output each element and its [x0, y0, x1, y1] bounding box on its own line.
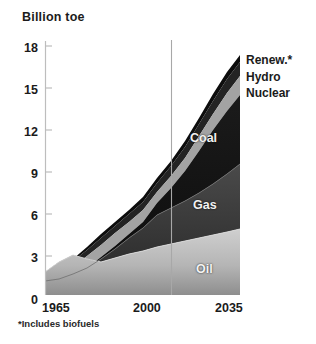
legend-item-renewables: Renew.* — [246, 52, 292, 69]
legend-item-hydro: Hydro — [246, 69, 292, 86]
legend-item-nuclear: Nuclear — [246, 85, 292, 102]
series-label-coal: Coal — [190, 131, 217, 145]
chart-legend: Renew.* Hydro Nuclear — [246, 52, 292, 102]
series-label-gas: Gas — [193, 198, 217, 212]
series-label-oil: Oil — [196, 262, 213, 276]
chart-footnote: *Includes biofuels — [18, 318, 99, 329]
energy-outlook-stacked-area-chart: Billion toe 18 15 12 9 6 3 0 1965 2000 2… — [0, 0, 316, 344]
